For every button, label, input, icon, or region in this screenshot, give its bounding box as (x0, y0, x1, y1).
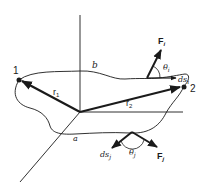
label-theta-i: θi (163, 63, 170, 73)
theta-i-arc (153, 66, 160, 78)
Fj-vector (132, 132, 157, 147)
y-axis (20, 112, 80, 182)
label-r1: r1 (53, 87, 60, 98)
label-Fj: Fj (157, 151, 165, 162)
label-dsi: dsi (178, 75, 189, 85)
label-theta-j: θj (129, 148, 136, 159)
label-path-a: a (73, 134, 78, 143)
label-path-b: b (92, 60, 98, 70)
label-point-2: 2 (190, 83, 196, 94)
Fi-vector (147, 50, 161, 78)
dsj-vector (112, 132, 132, 148)
label-dsj: dsj (100, 150, 111, 161)
r1-vector (22, 81, 80, 112)
point-1-dot (17, 78, 22, 83)
label-point-1: 1 (13, 65, 19, 76)
point-2-dot (182, 85, 187, 90)
label-Fi: Fi (158, 36, 166, 47)
work-path-diagram: 1 2 r1 r2 b a Fi dsi θi Fj dsj θj (0, 0, 206, 187)
